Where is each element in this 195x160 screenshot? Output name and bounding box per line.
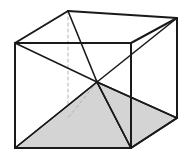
center-vertex-dot [96, 81, 99, 84]
center-point-group [96, 81, 99, 84]
cube-diagram-svg [0, 0, 195, 160]
cube-diagram-figure [0, 0, 195, 160]
